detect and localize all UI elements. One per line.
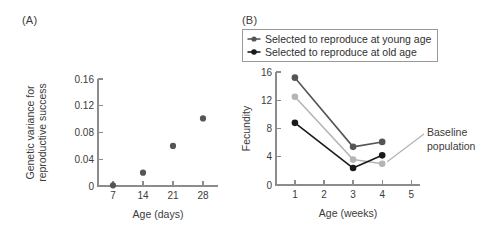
data-point bbox=[379, 161, 386, 168]
data-point bbox=[140, 170, 146, 176]
panel-b-label: (B) bbox=[242, 14, 257, 26]
data-point bbox=[379, 152, 386, 159]
figure-container: (A) 00.040.080.120.167142128Age (days)Ge… bbox=[0, 0, 490, 235]
y-axis-title: reproductive success bbox=[36, 83, 48, 182]
y-tick-label: 8 bbox=[266, 123, 272, 134]
data-point bbox=[292, 120, 299, 127]
panel-a-label: (A) bbox=[22, 14, 37, 26]
y-tick-label: 4 bbox=[266, 151, 272, 162]
data-point bbox=[350, 156, 357, 163]
legend: Selected to reproduce at young age Selec… bbox=[242, 29, 438, 62]
y-axis-title: Genetic variance for bbox=[24, 85, 36, 179]
y-tick-label: 16 bbox=[261, 67, 273, 78]
x-tick-label: 2 bbox=[321, 189, 327, 200]
y-tick-label: 0.16 bbox=[75, 74, 95, 85]
data-point bbox=[350, 165, 357, 172]
data-point bbox=[350, 144, 357, 151]
y-tick-label: 0 bbox=[88, 181, 94, 192]
data-point bbox=[292, 93, 299, 100]
legend-marker-young-icon bbox=[247, 33, 261, 45]
data-point bbox=[292, 74, 299, 81]
panel-a-plot: 00.040.080.120.167142128Age (days)Geneti… bbox=[0, 0, 245, 235]
y-tick-label: 0.04 bbox=[75, 154, 95, 165]
legend-item-old: Selected to reproduce at old age bbox=[247, 45, 431, 58]
x-tick-label: 7 bbox=[110, 190, 116, 201]
panel-b: (B) Selected to reproduce at young age S… bbox=[228, 0, 490, 235]
y-tick-label: 12 bbox=[261, 95, 273, 106]
axis-lines bbox=[98, 79, 218, 186]
x-axis-title: Age (days) bbox=[133, 208, 184, 220]
baseline-annotation-line1: Baseline bbox=[427, 126, 467, 138]
x-axis-title: Age (weeks) bbox=[319, 207, 377, 219]
data-point bbox=[200, 115, 206, 121]
baseline-annotation-line2: population bbox=[427, 140, 476, 152]
x-tick-label: 1 bbox=[292, 189, 298, 200]
legend-item-young: Selected to reproduce at young age bbox=[247, 32, 431, 45]
axis-lines bbox=[276, 72, 420, 185]
data-point bbox=[110, 182, 116, 188]
x-tick-label: 28 bbox=[197, 190, 209, 201]
legend-marker-old-icon bbox=[247, 46, 261, 58]
series-line bbox=[295, 78, 382, 147]
x-tick-label: 4 bbox=[379, 189, 385, 200]
baseline-leader-line bbox=[387, 134, 424, 162]
legend-label-old: Selected to reproduce at old age bbox=[265, 46, 417, 58]
legend-label-young: Selected to reproduce at young age bbox=[265, 33, 431, 45]
y-tick-label: 0 bbox=[266, 180, 272, 191]
y-tick-label: 0.12 bbox=[75, 100, 95, 111]
x-tick-label: 21 bbox=[167, 190, 179, 201]
x-tick-label: 14 bbox=[137, 190, 149, 201]
data-point bbox=[379, 139, 386, 146]
x-tick-label: 5 bbox=[408, 189, 414, 200]
data-point bbox=[170, 143, 176, 149]
panel-a: (A) 00.040.080.120.167142128Age (days)Ge… bbox=[0, 0, 245, 235]
x-tick-label: 3 bbox=[350, 189, 356, 200]
y-tick-label: 0.08 bbox=[75, 127, 95, 138]
y-axis-title: Fecundity bbox=[240, 105, 252, 151]
